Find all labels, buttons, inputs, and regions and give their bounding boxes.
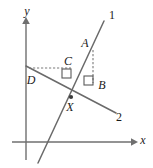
- diagram-canvas: y x 1 2 A B C D X: [0, 0, 153, 168]
- geometry-figure: y x 1 2 A B C D X: [0, 0, 153, 168]
- axes-group: [12, 17, 138, 160]
- right-angle-marker-b: [84, 76, 93, 85]
- y-axis-arrowhead: [22, 17, 30, 24]
- point-d-label: D: [26, 73, 36, 87]
- point-x-label: X: [65, 100, 74, 114]
- point-b-label: B: [98, 78, 106, 92]
- x-axis-arrowhead: [131, 138, 138, 146]
- point-a-label: A: [80, 36, 89, 50]
- point-c-label: C: [64, 54, 73, 68]
- line-2-label: 2: [116, 110, 122, 124]
- intersection-point-x: [69, 95, 73, 99]
- line-1-label: 1: [109, 8, 115, 22]
- right-angle-marker-c: [62, 69, 71, 78]
- y-axis-label: y: [23, 4, 30, 18]
- x-axis-label: x: [139, 133, 146, 147]
